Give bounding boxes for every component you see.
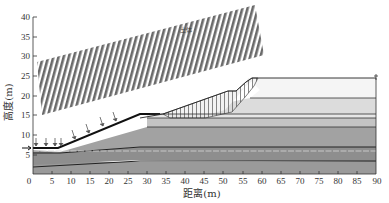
svg-text:80: 80 [334,176,344,186]
arrow-icon [34,138,38,146]
svg-text:40: 40 [181,176,191,186]
svg-text:25: 25 [21,71,31,81]
svg-text:40: 40 [21,12,31,22]
svg-text:15: 15 [21,110,31,120]
arrow-icon [86,124,90,133]
svg-text:45: 45 [200,176,210,186]
layer-3 [147,118,376,127]
slope-diagram: 土体 [0,0,389,203]
y-ticks [33,17,37,155]
svg-text:50: 50 [219,176,229,186]
svg-text:60: 60 [258,176,268,186]
svg-text:0: 0 [27,176,32,186]
svg-text:70: 70 [296,176,306,186]
arrow-icon [44,138,48,146]
svg-text:5: 5 [50,176,55,186]
layer-top [248,78,376,98]
svg-text:85: 85 [353,176,363,186]
y-tick-labels: 5 10 15 20 25 30 35 40 [21,12,31,160]
svg-text:35: 35 [21,32,31,42]
arrow-icon [53,138,57,146]
svg-text:30: 30 [21,51,31,61]
svg-text:30: 30 [143,176,153,186]
svg-text:15: 15 [86,176,96,186]
arrow-icon [59,138,63,146]
arrow-icon [113,112,117,121]
y-axis-title: 高度(m) [2,83,14,120]
x-tick-labels: 0 5 10 15 20 25 30 35 40 45 50 55 60 65 … [27,176,382,186]
svg-text:55: 55 [239,176,249,186]
x-axis-title: 距离(m) [183,187,220,199]
svg-text:75: 75 [315,176,325,186]
svg-text:35: 35 [162,176,172,186]
svg-text:90: 90 [373,176,383,186]
arrow-icon [72,130,76,139]
svg-text:10: 10 [21,130,31,140]
svg-text:10: 10 [67,176,77,186]
band-label: 土体 [180,26,192,34]
svg-text:65: 65 [277,176,287,186]
svg-text:25: 25 [124,176,134,186]
svg-text:5: 5 [26,150,31,160]
svg-text:20: 20 [105,176,115,186]
svg-text:20: 20 [21,91,31,101]
arrow-icon [100,117,104,126]
